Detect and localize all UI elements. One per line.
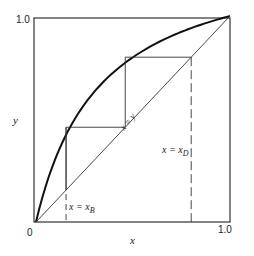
x-bottoms-label: x = xB: [68, 201, 95, 215]
x-bottoms-label-main: x = x: [68, 201, 90, 212]
x-tick-label-max: 1.0: [218, 224, 232, 235]
x-axis-label: x: [129, 234, 135, 246]
mccabe-thiele-diagram: 1.0 0 1.0 y x x = y x = xB x = xD: [0, 0, 254, 256]
x-distillate-label: x = xD: [161, 144, 189, 158]
x-distillate-label-sub: D: [182, 149, 189, 158]
x-distillate-label-main: x = x: [161, 144, 183, 155]
x-bottoms-label-sub: B: [90, 206, 95, 215]
y-axis-label: y: [12, 114, 18, 126]
origin-label: 0: [27, 227, 33, 238]
diagonal-label: x = y: [117, 112, 137, 133]
y-tick-label-max: 1.0: [16, 14, 30, 25]
